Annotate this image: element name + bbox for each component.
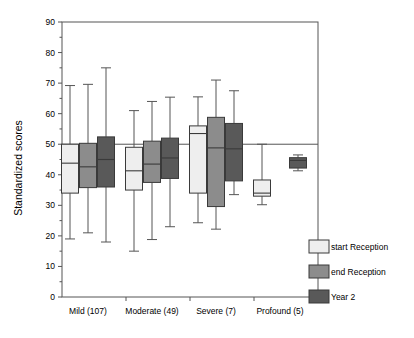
box-body bbox=[126, 147, 143, 190]
legend-swatch bbox=[309, 240, 329, 253]
legend-label: start Reception bbox=[331, 242, 388, 252]
box-body bbox=[62, 144, 79, 193]
legend-item[interactable]: Year 2 bbox=[309, 290, 356, 303]
y-tick-label: 20 bbox=[46, 231, 56, 241]
y-tick-label: 90 bbox=[46, 17, 56, 27]
box-body bbox=[208, 117, 225, 206]
box-body bbox=[80, 143, 97, 187]
x-category-label: Severe (7) bbox=[196, 306, 236, 316]
x-category-label: Profound (5) bbox=[256, 306, 303, 316]
legend-item[interactable]: end Reception bbox=[309, 265, 386, 278]
y-axis-title: Standardized scores bbox=[12, 120, 24, 216]
chart-canvas: 0102030405060708090Mild (107)Moderate (4… bbox=[0, 0, 414, 338]
legend-item[interactable]: start Reception bbox=[309, 240, 388, 253]
box-body bbox=[98, 137, 115, 187]
y-tick-label: 70 bbox=[46, 78, 56, 88]
box-plot-chart: 0102030405060708090Mild (107)Moderate (4… bbox=[0, 0, 414, 338]
y-tick-label: 40 bbox=[46, 170, 56, 180]
x-category-label: Mild (107) bbox=[69, 306, 107, 316]
legend-swatch bbox=[309, 265, 329, 278]
legend-label: end Reception bbox=[331, 267, 386, 277]
legend-label: Year 2 bbox=[331, 292, 356, 302]
y-tick-label: 60 bbox=[46, 109, 56, 119]
box-body bbox=[226, 123, 243, 180]
y-tick-label: 10 bbox=[46, 261, 56, 271]
box-plot-item bbox=[290, 155, 307, 171]
box-body bbox=[190, 126, 207, 193]
box-body bbox=[290, 158, 307, 168]
x-category-label: Moderate (49) bbox=[125, 306, 179, 316]
box-body bbox=[254, 180, 271, 196]
legend-swatch bbox=[309, 290, 329, 303]
y-tick-label: 30 bbox=[46, 200, 56, 210]
box-body bbox=[144, 141, 161, 182]
y-tick-label: 50 bbox=[46, 139, 56, 149]
y-tick-label: 80 bbox=[46, 48, 56, 58]
y-tick-label: 0 bbox=[50, 292, 55, 302]
